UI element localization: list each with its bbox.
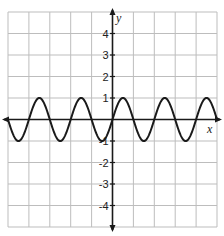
- y-tick-label: -2: [99, 157, 109, 169]
- y-tick-label: -3: [99, 178, 109, 190]
- y-axis-label: y: [115, 11, 122, 25]
- y-tick-label: 2: [102, 71, 108, 83]
- x-axis-label: x: [206, 122, 213, 136]
- y-tick-label: 1: [102, 92, 108, 104]
- y-axis-down-arrow-icon: [110, 225, 116, 232]
- y-tick-label: -4: [99, 200, 109, 212]
- sine-graph: -4-3-2-11234 x y: [0, 0, 224, 236]
- y-tick-label: 3: [102, 49, 108, 61]
- y-tick-label: 4: [102, 28, 108, 40]
